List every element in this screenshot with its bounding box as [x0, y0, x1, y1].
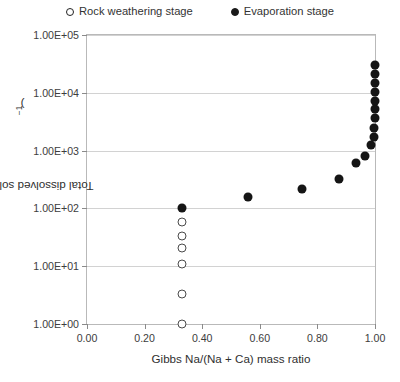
x-axis-tick	[375, 324, 376, 329]
y-axis-tick	[82, 35, 87, 36]
y-axis-tick-label: 1.00E+05	[33, 29, 79, 41]
y-axis-tick	[82, 208, 87, 209]
x-axis-tick-label: 0.60	[249, 332, 270, 344]
y-axis-title-close: )	[21, 97, 25, 110]
y-axis-title-main: Total dissolved solids (mg L	[0, 180, 94, 193]
legend-label-evaporation-stage: Evaporation stage	[244, 6, 334, 17]
data-point	[335, 175, 344, 184]
data-point	[370, 114, 379, 123]
data-point	[178, 320, 187, 329]
x-axis-tick-label: 0.00	[77, 332, 98, 344]
data-point	[178, 290, 187, 299]
y-gridline	[87, 93, 375, 94]
y-axis-tick-label: 1.00E+00	[33, 318, 79, 330]
y-axis-tick-label: 1.00E+02	[33, 202, 79, 214]
x-axis-title: Gibbs Na/(Na + Ca) mass ratio	[86, 352, 376, 365]
data-point	[178, 204, 187, 213]
data-point	[370, 97, 379, 106]
y-axis-tick-label: 1.00E+04	[33, 87, 79, 99]
legend-item-rock-weathering-stage: Rock weathering stage	[66, 6, 193, 17]
y-gridline	[87, 208, 375, 209]
data-point	[352, 159, 361, 168]
x-axis-tick	[145, 324, 146, 329]
x-axis-tick-label: 0.20	[134, 332, 155, 344]
y-axis-tick	[82, 266, 87, 267]
data-point	[371, 78, 380, 87]
x-axis-tick	[260, 324, 261, 329]
data-point	[366, 140, 375, 149]
y-gridline	[87, 151, 375, 152]
data-point	[371, 61, 380, 70]
x-axis-tick-label: 1.00	[365, 332, 386, 344]
data-point	[370, 123, 379, 132]
x-axis-tick	[87, 324, 88, 329]
plot-area: 1.00E+001.00E+011.00E+021.00E+031.00E+04…	[86, 34, 376, 325]
data-point	[178, 218, 187, 227]
y-axis-tick	[82, 151, 87, 152]
y-axis-title: Total dissolved solids (mg L−1)	[14, 34, 30, 325]
legend-label-rock-weathering-stage: Rock weathering stage	[79, 6, 193, 17]
legend-item-evaporation-stage: Evaporation stage	[231, 6, 334, 17]
data-point	[360, 151, 369, 160]
y-axis-tick	[82, 93, 87, 94]
data-point	[178, 243, 187, 252]
x-axis-tick-label: 0.40	[192, 332, 213, 344]
y-axis-tick-label: 1.00E+01	[33, 260, 79, 272]
data-point	[370, 105, 379, 114]
data-point	[297, 184, 306, 193]
gibbs-scatter-chart: Rock weathering stage Evaporation stage …	[0, 0, 400, 382]
x-axis-tick	[202, 324, 203, 329]
open-circle-icon	[66, 8, 74, 16]
y-axis-tick-label: 1.00E+03	[33, 145, 79, 157]
y-gridline	[87, 35, 375, 36]
x-axis-tick	[317, 324, 318, 329]
filled-circle-icon	[231, 8, 239, 16]
data-point	[371, 70, 380, 79]
data-point	[178, 232, 187, 241]
data-point	[371, 87, 380, 96]
data-point	[369, 132, 378, 141]
y-gridline	[87, 266, 375, 267]
chart-legend: Rock weathering stage Evaporation stage	[0, 6, 400, 17]
data-point	[178, 259, 187, 268]
x-axis-tick-label: 0.80	[307, 332, 328, 344]
data-point	[244, 193, 253, 202]
